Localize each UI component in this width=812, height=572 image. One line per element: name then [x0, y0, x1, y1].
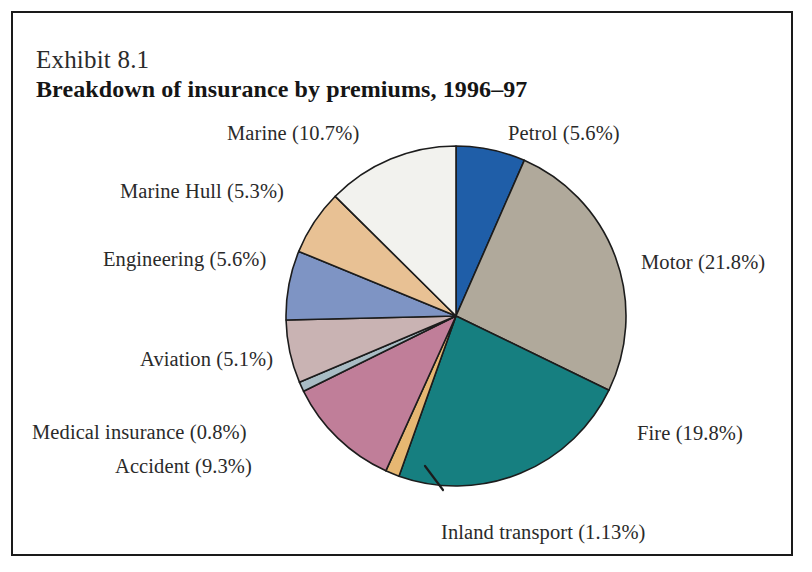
- pie-chart: [0, 0, 812, 572]
- pie-chart-area: Marine (10.7%) Petrol (5.6%) Marine Hull…: [0, 0, 812, 572]
- exhibit-figure: Exhibit 8.1 Breakdown of insurance by pr…: [0, 0, 812, 572]
- pie-slice-group: [286, 146, 626, 486]
